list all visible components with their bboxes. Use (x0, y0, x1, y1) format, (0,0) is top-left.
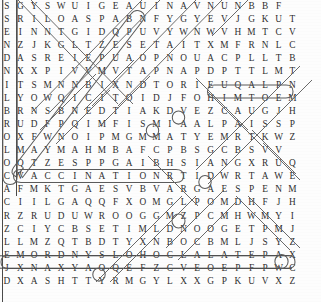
grid-cell[interactable]: R (27, 210, 41, 223)
grid-cell[interactable]: I (82, 0, 96, 13)
grid-cell[interactable]: Z (285, 275, 299, 288)
grid-cell[interactable]: A (122, 52, 136, 65)
grid-cell[interactable]: I (82, 131, 96, 144)
grid-cell[interactable]: B (285, 52, 299, 65)
grid-cell[interactable]: N (41, 26, 55, 39)
grid-cell[interactable]: T (231, 249, 245, 262)
grid-cell[interactable]: U (41, 210, 55, 223)
grid-cell[interactable]: V (14, 170, 28, 183)
grid-cell[interactable]: S (41, 105, 55, 118)
grid-cell[interactable]: A (27, 144, 41, 157)
grid-cell[interactable]: B (54, 105, 68, 118)
grid-cell[interactable]: T (285, 13, 299, 26)
grid-cell[interactable]: E (218, 262, 232, 275)
grid-cell[interactable]: Q (68, 118, 82, 131)
grid-cell[interactable]: J (163, 92, 177, 105)
grid-cell[interactable]: L (204, 118, 218, 131)
grid-cell[interactable]: Y (190, 13, 204, 26)
grid-cell[interactable]: T (109, 223, 123, 236)
grid-cell[interactable]: O (136, 196, 150, 209)
grid-cell[interactable]: Z (14, 39, 28, 52)
grid-cell[interactable]: X (285, 249, 299, 262)
grid-cell[interactable]: S (0, 13, 14, 26)
grid-cell[interactable]: Z (41, 157, 55, 170)
grid-cell[interactable]: X (177, 275, 191, 288)
grid-cell[interactable]: R (177, 183, 191, 196)
grid-cell[interactable]: W (218, 170, 232, 183)
grid-cell[interactable]: F (136, 144, 150, 157)
grid-cell[interactable]: Y (122, 236, 136, 249)
grid-cell[interactable]: R (109, 275, 123, 288)
grid-cell[interactable]: L (0, 92, 14, 105)
grid-cell[interactable]: D (163, 105, 177, 118)
grid-cell[interactable]: E (109, 39, 123, 52)
grid-cell[interactable]: Q (82, 196, 96, 209)
grid-cell[interactable]: C (204, 210, 218, 223)
grid-cell[interactable]: S (122, 39, 136, 52)
grid-cell[interactable]: E (95, 223, 109, 236)
grid-cell[interactable]: N (82, 170, 96, 183)
grid-cell[interactable]: M (95, 118, 109, 131)
grid-cell[interactable]: M (150, 131, 164, 144)
grid-cell[interactable]: N (27, 26, 41, 39)
grid-cell[interactable]: T (14, 79, 28, 92)
grid-cell[interactable]: A (109, 13, 123, 26)
grid-cell[interactable]: A (258, 170, 272, 183)
grid-cell[interactable]: O (27, 92, 41, 105)
grid-cell[interactable]: N (136, 13, 150, 26)
grid-cell[interactable]: N (54, 79, 68, 92)
grid-cell[interactable]: F (231, 39, 245, 52)
grid-cell[interactable]: Q (109, 262, 123, 275)
grid-cell[interactable]: A (190, 249, 204, 262)
grid-cell[interactable]: C (54, 170, 68, 183)
grid-cell[interactable]: J (231, 13, 245, 26)
grid-cell[interactable]: Z (177, 210, 191, 223)
grid-cell[interactable]: O (0, 157, 14, 170)
grid-cell[interactable]: E (231, 223, 245, 236)
grid-cell[interactable]: M (54, 144, 68, 157)
grid-cell[interactable]: M (27, 236, 41, 249)
grid-cell[interactable]: G (122, 131, 136, 144)
grid-cell[interactable]: W (272, 262, 286, 275)
grid-cell[interactable]: M (218, 39, 232, 52)
grid-cell[interactable]: M (27, 183, 41, 196)
grid-cell[interactable]: U (109, 52, 123, 65)
grid-cell[interactable]: N (0, 39, 14, 52)
grid-cell[interactable]: O (190, 92, 204, 105)
grid-cell[interactable]: V (190, 0, 204, 13)
grid-cell[interactable]: L (68, 39, 82, 52)
grid-cell[interactable]: E (54, 52, 68, 65)
grid-cell[interactable]: M (41, 79, 55, 92)
grid-cell[interactable]: I (136, 157, 150, 170)
grid-cell[interactable]: L (41, 196, 55, 209)
grid-cell[interactable]: U (68, 210, 82, 223)
grid-cell[interactable]: P (122, 26, 136, 39)
grid-cell[interactable]: L (231, 236, 245, 249)
grid-cell[interactable]: V (218, 26, 232, 39)
grid-cell[interactable]: A (231, 118, 245, 131)
grid-cell[interactable]: Y (95, 275, 109, 288)
grid-cell[interactable]: M (285, 183, 299, 196)
grid-cell[interactable]: O (0, 131, 14, 144)
grid-cell[interactable]: R (231, 170, 245, 183)
grid-cell[interactable]: A (122, 144, 136, 157)
grid-cell[interactable]: P (95, 52, 109, 65)
grid-cell[interactable]: M (218, 210, 232, 223)
grid-cell[interactable]: K (258, 13, 272, 26)
grid-cell[interactable]: E (122, 262, 136, 275)
grid-cell[interactable]: C (272, 26, 286, 39)
grid-cell[interactable]: I (122, 223, 136, 236)
grid-cell[interactable]: I (122, 170, 136, 183)
grid-cell[interactable]: X (27, 65, 41, 78)
grid-cell[interactable]: T (177, 170, 191, 183)
grid-cell[interactable]: N (285, 79, 299, 92)
grid-cell[interactable]: R (14, 13, 28, 26)
grid-cell[interactable]: V (68, 65, 82, 78)
grid-cell[interactable]: J (0, 262, 14, 275)
grid-cell[interactable]: W (177, 26, 191, 39)
grid-cell[interactable]: L (258, 65, 272, 78)
grid-cell[interactable]: C (190, 236, 204, 249)
grid-cell[interactable]: W (245, 210, 259, 223)
grid-cell[interactable]: L (0, 236, 14, 249)
grid-cell[interactable]: V (218, 13, 232, 26)
